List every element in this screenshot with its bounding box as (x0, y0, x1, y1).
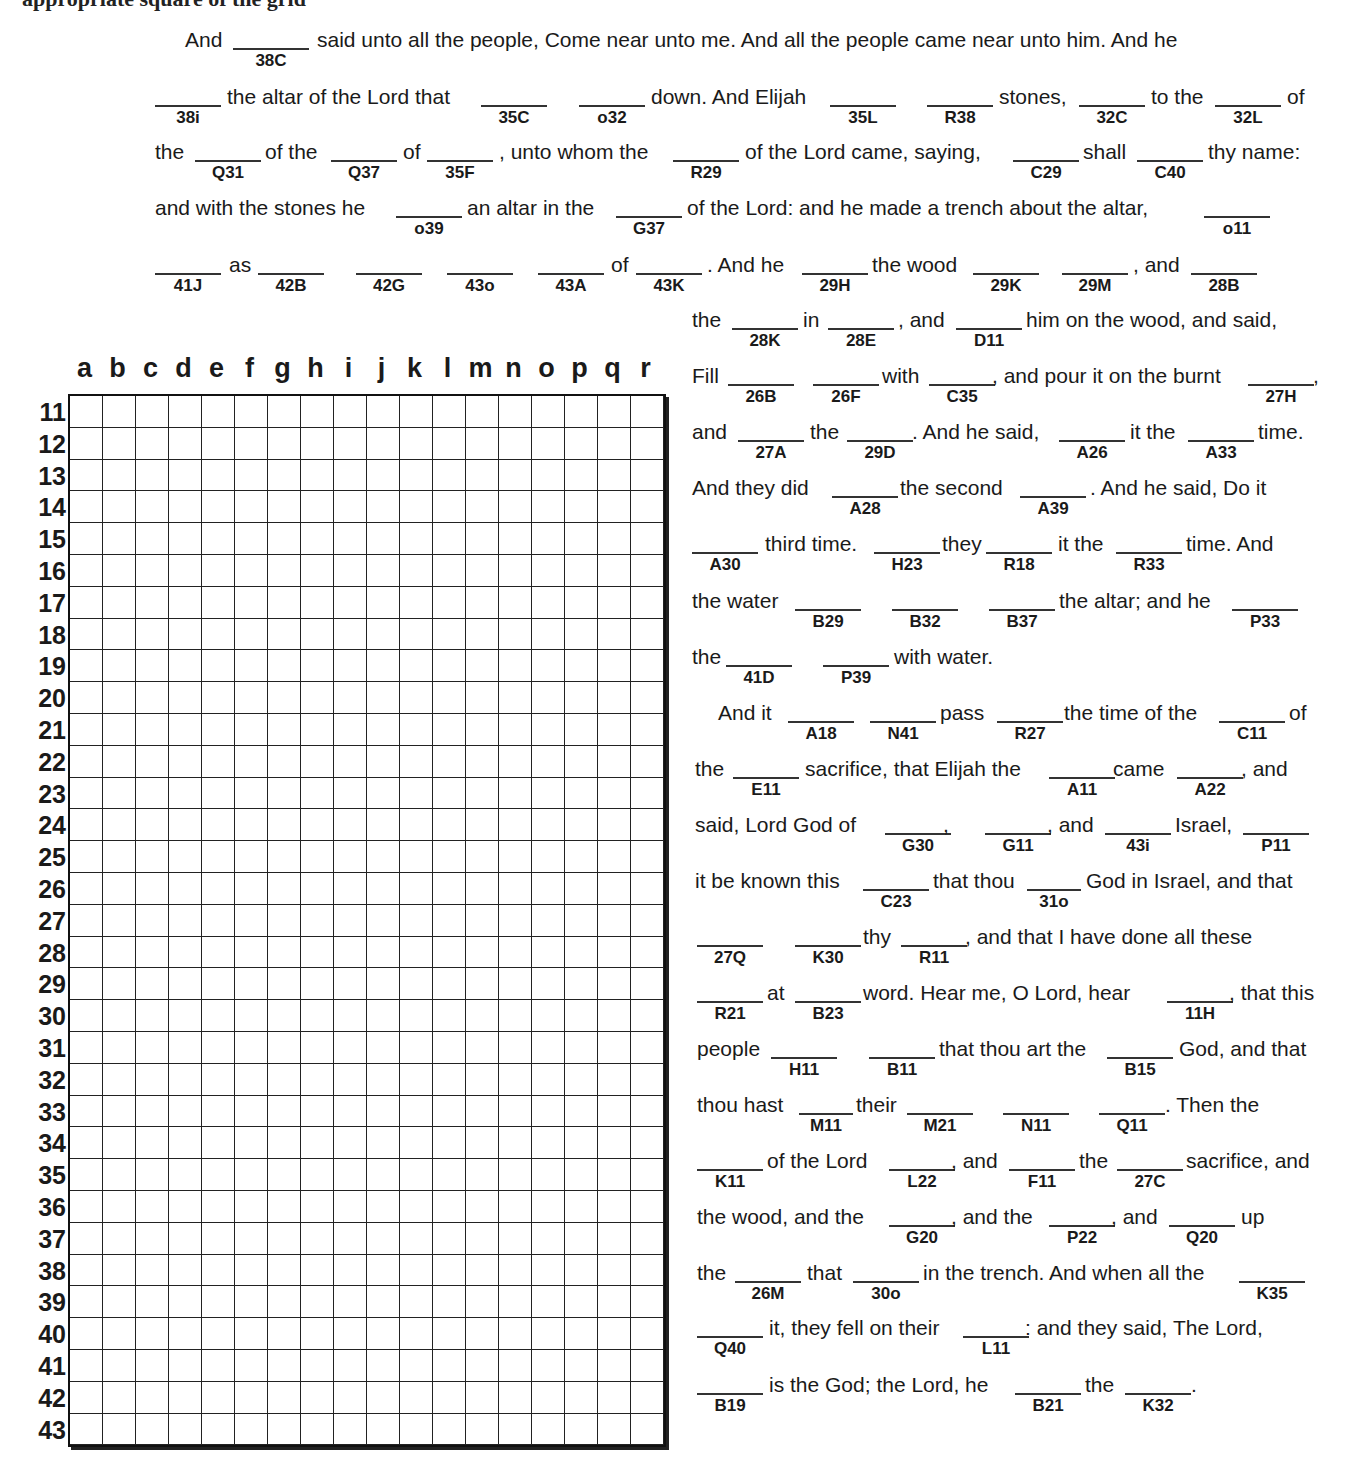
grid-cell[interactable] (367, 587, 400, 619)
grid-cell[interactable] (598, 682, 631, 714)
grid-cell[interactable] (367, 746, 400, 778)
answer-blank[interactable]: 26M (735, 1281, 801, 1307)
grid-cell[interactable] (103, 1255, 136, 1287)
grid-cell[interactable] (433, 1096, 466, 1128)
grid-cell[interactable] (268, 1382, 301, 1414)
grid-cell[interactable] (202, 1255, 235, 1287)
grid-cell[interactable] (565, 1255, 598, 1287)
grid-cell[interactable] (334, 1096, 367, 1128)
grid-cell[interactable] (103, 1127, 136, 1159)
grid-cell[interactable] (598, 1318, 631, 1350)
grid-cell[interactable] (235, 650, 268, 682)
answer-blank[interactable]: R33 (1116, 552, 1182, 578)
answer-blank[interactable]: R18 (986, 552, 1052, 578)
grid-cell[interactable] (235, 809, 268, 841)
grid-cell[interactable] (202, 1223, 235, 1255)
grid-cell[interactable] (631, 746, 664, 778)
answer-blank[interactable]: E11 (733, 777, 799, 803)
grid-cell[interactable] (565, 937, 598, 969)
grid-cell[interactable] (400, 1286, 433, 1318)
grid-cell[interactable] (70, 778, 103, 810)
puzzle-grid[interactable] (68, 394, 666, 1447)
grid-cell[interactable] (532, 1096, 565, 1128)
grid-cell[interactable] (268, 491, 301, 523)
grid-cell[interactable] (301, 460, 334, 492)
answer-blank[interactable]: A39 (1020, 496, 1086, 522)
grid-cell[interactable] (598, 1159, 631, 1191)
answer-blank[interactable]: H11 (771, 1057, 837, 1083)
grid-cell[interactable] (598, 650, 631, 682)
answer-blank[interactable]: G11 (985, 833, 1051, 859)
answer-blank[interactable]: 38i (155, 105, 221, 131)
grid-cell[interactable] (202, 619, 235, 651)
grid-cell[interactable] (631, 1159, 664, 1191)
grid-cell[interactable] (70, 523, 103, 555)
grid-cell[interactable] (103, 937, 136, 969)
grid-cell[interactable] (70, 809, 103, 841)
grid-cell[interactable] (631, 778, 664, 810)
grid-cell[interactable] (70, 587, 103, 619)
grid-cell[interactable] (400, 619, 433, 651)
grid-cell[interactable] (334, 1159, 367, 1191)
grid-cell[interactable] (565, 1096, 598, 1128)
grid-cell[interactable] (103, 555, 136, 587)
grid-cell[interactable] (631, 968, 664, 1000)
grid-cell[interactable] (268, 1191, 301, 1223)
grid-cell[interactable] (70, 1127, 103, 1159)
grid-cell[interactable] (532, 1414, 565, 1446)
grid-cell[interactable] (532, 1255, 565, 1287)
grid-cell[interactable] (400, 1382, 433, 1414)
grid-cell[interactable] (466, 587, 499, 619)
grid-cell[interactable] (631, 1127, 664, 1159)
grid-cell[interactable] (598, 968, 631, 1000)
grid-cell[interactable] (70, 905, 103, 937)
grid-cell[interactable] (466, 682, 499, 714)
grid-cell[interactable] (169, 873, 202, 905)
grid-cell[interactable] (433, 555, 466, 587)
grid-cell[interactable] (466, 1414, 499, 1446)
grid-cell[interactable] (301, 523, 334, 555)
grid-cell[interactable] (565, 650, 598, 682)
grid-cell[interactable] (169, 1096, 202, 1128)
grid-cell[interactable] (268, 555, 301, 587)
grid-cell[interactable] (136, 1414, 169, 1446)
grid-cell[interactable] (136, 714, 169, 746)
grid-cell[interactable] (433, 1350, 466, 1382)
grid-cell[interactable] (433, 1318, 466, 1350)
grid-cell[interactable] (532, 1286, 565, 1318)
grid-cell[interactable] (202, 1414, 235, 1446)
answer-blank[interactable]: 41J (155, 273, 221, 299)
grid-cell[interactable] (499, 1159, 532, 1191)
grid-cell[interactable] (532, 778, 565, 810)
answer-blank[interactable]: M11 (799, 1113, 853, 1139)
grid-cell[interactable] (103, 1318, 136, 1350)
answer-blank[interactable]: 35C (481, 105, 547, 131)
grid-cell[interactable] (499, 905, 532, 937)
grid-cell[interactable] (367, 778, 400, 810)
grid-cell[interactable] (169, 619, 202, 651)
grid-cell[interactable] (301, 1414, 334, 1446)
grid-cell[interactable] (499, 428, 532, 460)
grid-cell[interactable] (136, 1000, 169, 1032)
answer-blank[interactable]: 28K (732, 328, 798, 354)
answer-blank[interactable]: A33 (1188, 440, 1254, 466)
grid-cell[interactable] (235, 937, 268, 969)
grid-cell[interactable] (70, 1064, 103, 1096)
grid-cell[interactable] (103, 746, 136, 778)
grid-cell[interactable] (136, 523, 169, 555)
grid-cell[interactable] (70, 1318, 103, 1350)
grid-cell[interactable] (334, 905, 367, 937)
grid-cell[interactable] (466, 778, 499, 810)
grid-cell[interactable] (598, 1382, 631, 1414)
grid-cell[interactable] (136, 937, 169, 969)
answer-blank[interactable]: N41 (870, 721, 936, 747)
answer-blank[interactable]: 43i (1105, 833, 1171, 859)
grid-cell[interactable] (202, 428, 235, 460)
grid-cell[interactable] (433, 1064, 466, 1096)
grid-cell[interactable] (433, 1159, 466, 1191)
grid-cell[interactable] (565, 491, 598, 523)
grid-cell[interactable] (103, 778, 136, 810)
grid-cell[interactable] (400, 555, 433, 587)
grid-cell[interactable] (400, 1096, 433, 1128)
grid-cell[interactable] (268, 937, 301, 969)
